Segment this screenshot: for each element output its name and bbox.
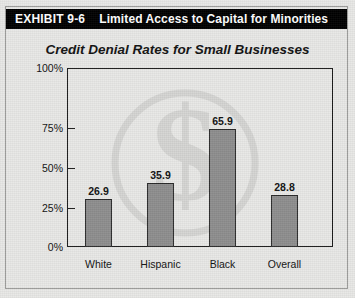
bar-black: [209, 129, 236, 247]
x-label-hispanic: Hispanic: [130, 258, 191, 270]
bar-value-overall: 28.8: [259, 181, 310, 193]
bar-overall: [271, 195, 298, 247]
bars-layer: 26.9 White 35.9 Hispanic 65.9 Black 28.8…: [0, 0, 355, 298]
bar-value-hispanic: 35.9: [135, 169, 186, 181]
bar-white: [85, 199, 112, 247]
x-label-black: Black: [197, 258, 248, 270]
bar-value-white: 26.9: [73, 185, 124, 197]
x-label-overall: Overall: [254, 258, 315, 270]
exhibit-figure: EXHIBIT 9-6 Limited Access to Capital fo…: [0, 0, 355, 298]
bar-value-black: 65.9: [197, 115, 248, 127]
bar-hispanic: [147, 183, 174, 247]
x-label-white: White: [73, 258, 124, 270]
